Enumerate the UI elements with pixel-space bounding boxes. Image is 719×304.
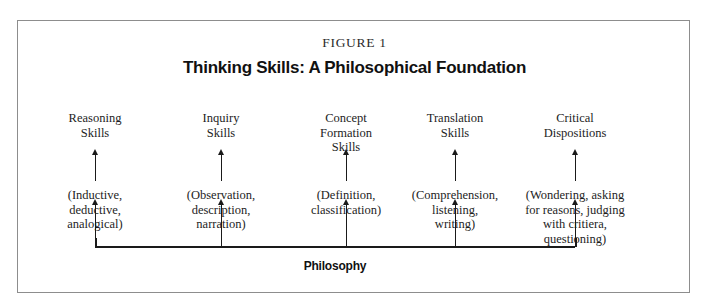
upward-arrow [91, 149, 100, 181]
arrow-stem [221, 153, 222, 181]
arrow-stem [455, 203, 456, 246]
arrow-stem [221, 203, 222, 246]
upward-arrow [217, 149, 226, 181]
arrow-stem [346, 153, 347, 181]
figure-number-label: FIGURE 1 [18, 35, 691, 51]
upward-arrow [571, 149, 580, 181]
figure-title: Thinking Skills: A Philosophical Foundat… [18, 58, 691, 78]
upward-arrow [342, 199, 351, 246]
foundation-label: Philosophy [95, 259, 575, 273]
skill-column-title: Critical Dispositions [500, 111, 650, 140]
upward-arrow [451, 149, 460, 181]
bracket-riser [575, 238, 577, 247]
upward-arrow [342, 149, 351, 181]
upward-arrow [217, 199, 226, 246]
bracket-riser [95, 238, 97, 247]
bracket-horizontal-bar [95, 246, 575, 248]
figure-frame: FIGURE 1 Thinking Skills: A Philosophica… [17, 20, 690, 293]
arrow-stem [95, 153, 96, 181]
arrow-stem [455, 153, 456, 181]
arrow-stem [575, 153, 576, 181]
upward-arrow [451, 199, 460, 246]
skill-column: Critical Dispositions(Wondering, asking … [500, 111, 650, 140]
arrow-stem [346, 203, 347, 246]
